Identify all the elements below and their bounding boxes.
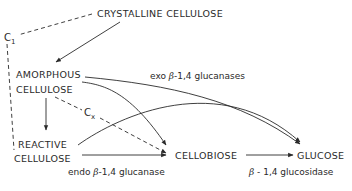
node-reactive-cellulose-line1: REACTIVE: [18, 140, 67, 150]
c1-dashed-line: [7, 44, 14, 150]
node-amorphous-cellulose-line1: AMORPHOUS: [16, 70, 81, 80]
enzyme-endo-glucanase-label: endo β-1,4 glucanase: [68, 168, 165, 177]
c1-subscript: 1: [11, 38, 15, 46]
node-reactive-cellulose-line2: CELLULOSE: [14, 154, 71, 164]
node-cellobiose: CELLOBIOSE: [175, 151, 237, 161]
cx-main: C: [84, 107, 91, 118]
node-amorphous-cellulose-line2: CELLULOSE: [16, 85, 73, 95]
enzyme-exo-glucanases-label: exo β-1,4 glucanases: [150, 72, 245, 81]
node-glucose: GLUCOSE: [297, 151, 344, 161]
enzyme-cx-label: Cx: [84, 108, 95, 118]
c1-main: C: [4, 32, 11, 43]
enzyme-c1-label: C1: [4, 33, 15, 43]
node-crystalline-cellulose: CRYSTALLINE CELLULOSE: [97, 9, 223, 19]
cx-subscript: x: [91, 113, 95, 121]
enzyme-glucosidase-label: β - 1,4 glucosidase: [249, 168, 333, 177]
